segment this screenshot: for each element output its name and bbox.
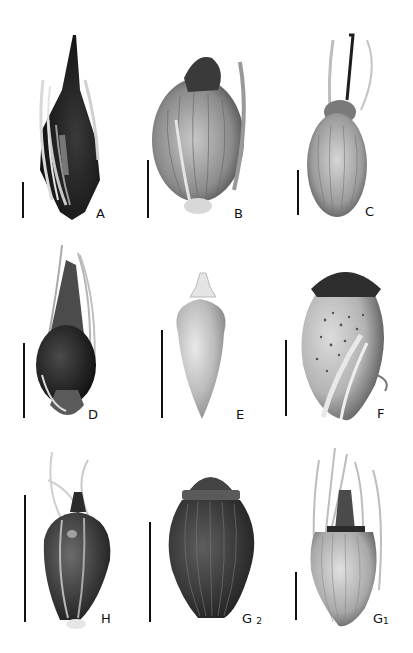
achene-a-image bbox=[0, 0, 138, 225]
panel-label-f: F bbox=[377, 407, 384, 420]
figure-plate: A B bbox=[0, 0, 413, 653]
panel-h: H bbox=[0, 430, 138, 653]
achene-h-image bbox=[0, 430, 138, 653]
panel-e: E bbox=[138, 225, 275, 430]
scale-bar-e bbox=[161, 330, 163, 418]
panel-label-g1-letter: G bbox=[373, 611, 383, 626]
panel-g1: G1 bbox=[275, 430, 413, 653]
scale-bar-g1 bbox=[295, 572, 297, 620]
panel-f: F bbox=[275, 225, 413, 430]
panel-b: B bbox=[138, 0, 275, 225]
scale-bar-g2 bbox=[149, 522, 151, 622]
scale-bar-h bbox=[24, 495, 26, 622]
panel-label-a: A bbox=[96, 207, 105, 220]
scale-bar-b bbox=[147, 160, 149, 218]
panel-a: A bbox=[0, 0, 138, 225]
panel-c: C bbox=[275, 0, 413, 225]
panel-label-c: C bbox=[365, 205, 374, 218]
panel-g2: G 2 bbox=[138, 430, 275, 653]
scale-bar-c bbox=[297, 170, 299, 215]
panel-label-g2-letter: G bbox=[242, 611, 252, 626]
panel-label-g2: G 2 bbox=[242, 612, 262, 625]
panel-label-d: D bbox=[88, 408, 98, 421]
scale-bar-d bbox=[23, 343, 25, 418]
panel-label-g1-subscript: 1 bbox=[383, 616, 389, 626]
panel-d: D bbox=[0, 225, 138, 430]
panel-label-e: E bbox=[236, 408, 244, 421]
panel-label-b: B bbox=[234, 207, 243, 220]
panel-label-g1: G1 bbox=[373, 612, 389, 625]
achene-c-image bbox=[275, 0, 413, 225]
scale-bar-a bbox=[22, 182, 24, 218]
achene-f-image bbox=[275, 225, 413, 430]
achene-e-image bbox=[138, 225, 275, 430]
panel-label-h: H bbox=[101, 612, 111, 625]
achene-b-image bbox=[138, 0, 275, 225]
panel-label-g2-subscript: 2 bbox=[256, 616, 262, 626]
achene-d-image bbox=[0, 225, 138, 430]
scale-bar-f bbox=[285, 340, 287, 416]
